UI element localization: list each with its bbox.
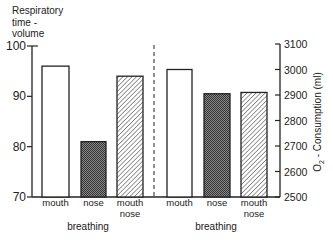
bar-right-mouth-nose	[241, 92, 267, 197]
left-y-tick-label: 100	[6, 39, 26, 53]
bar-right-mouth	[167, 70, 192, 198]
left-y-tick-label: 80	[13, 140, 27, 154]
left-x-axis-label: breathing	[67, 221, 109, 232]
x-category-label: nose	[83, 197, 104, 208]
right-y-tick-label: 2900	[284, 89, 308, 101]
plot-area: 708090100mouthnosemouthnosebreathing2500…	[6, 38, 308, 232]
bar-left-mouth-nose	[117, 76, 143, 197]
bar-left-mouth	[42, 66, 69, 197]
x-category-label: nose	[120, 208, 141, 219]
bar-right-nose	[204, 94, 230, 197]
right-y-tick-label: 3000	[284, 64, 308, 76]
left-y-tick-label: 90	[13, 89, 27, 103]
x-category-label: nose	[207, 197, 228, 208]
x-category-label: nose	[244, 208, 265, 219]
left-y-tick-label: 70	[13, 190, 27, 204]
right-y-tick-label: 2800	[284, 115, 308, 127]
bar-left-nose	[81, 142, 106, 197]
right-y-tick-label: 3100	[284, 38, 308, 50]
x-category-label: mouth	[42, 197, 68, 208]
right-y-axis-title: O2 - Consumption (ml)	[312, 72, 325, 172]
x-category-label: mouth	[166, 197, 192, 208]
x-category-label: mouth	[241, 197, 267, 208]
right-y-tick-label: 2600	[284, 166, 308, 178]
x-category-label: mouth	[117, 197, 143, 208]
bar-chart: 708090100mouthnosemouthnosebreathing2500…	[0, 0, 333, 244]
right-y-tick-label: 2500	[284, 191, 308, 203]
right-y-tick-label: 2700	[284, 140, 308, 152]
right-x-axis-label: breathing	[195, 221, 237, 232]
